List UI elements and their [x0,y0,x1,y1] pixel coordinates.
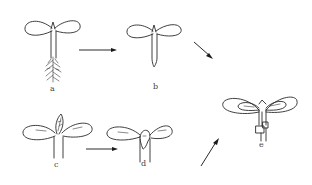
seedling-b [127,25,181,67]
arrow-a-to-b [79,48,117,52]
label-e: e [259,141,264,149]
label-b: b [153,83,158,91]
arrow-c-to-d [86,147,118,151]
label-c: c [54,161,58,169]
seedling-c [23,114,92,158]
seedling-e [223,97,297,141]
label-d: d [141,160,146,168]
seedling-diagram [0,0,312,185]
seedling-d [107,126,172,162]
roots [45,57,61,82]
label-a: a [50,85,55,93]
arrow-d-to-e [201,138,219,166]
seedling-a [25,21,80,82]
arrow-b-to-e [194,42,213,59]
